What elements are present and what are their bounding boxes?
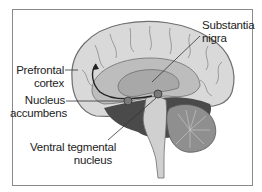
label-line: cortex	[16, 77, 64, 90]
label-substantia-nigra: Substantia nigra	[202, 19, 254, 45]
label-line: Prefrontal	[16, 64, 64, 77]
brainstem	[143, 97, 166, 178]
label-line: Nucleus	[10, 94, 65, 107]
label-prefrontal-cortex: Prefrontal cortex	[16, 64, 64, 90]
label-line: accumbens	[10, 107, 65, 120]
label-ventral-tegmental: Ventral tegmental nucleus	[30, 141, 112, 167]
label-line: Ventral tegmental	[30, 141, 112, 154]
vta-dot	[154, 90, 162, 98]
label-line: nucleus	[30, 154, 112, 167]
nucleus-accumbens-dot	[124, 97, 132, 105]
label-nucleus-accumbens: Nucleus accumbens	[10, 94, 65, 120]
label-line: nigra	[202, 32, 254, 45]
label-line: Substantia	[202, 19, 254, 32]
